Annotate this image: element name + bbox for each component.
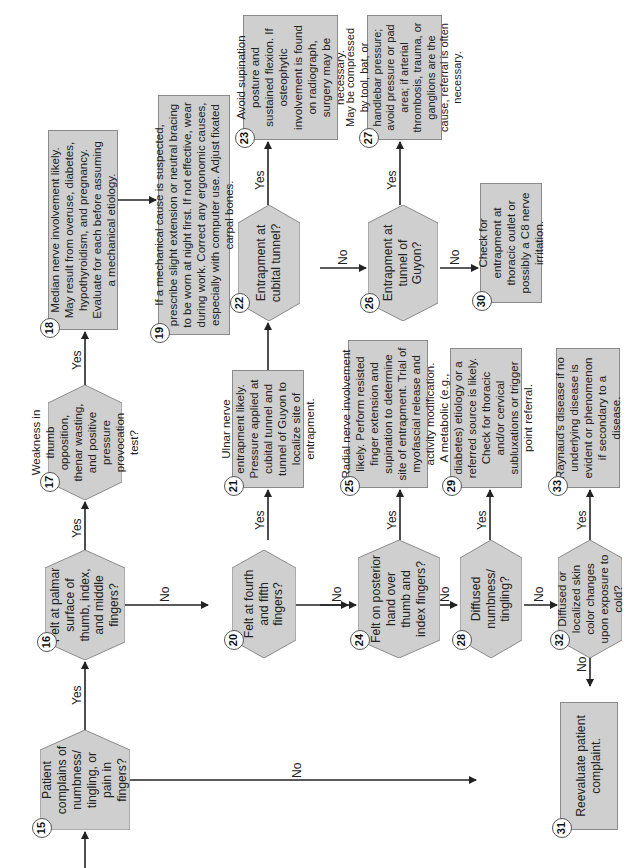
node-16-number: 16 <box>37 632 57 652</box>
edge-label-yes: Yes <box>475 510 489 530</box>
node-29-number: 29 <box>442 476 462 496</box>
edge-label-yes: Yes <box>385 170 399 190</box>
node-25-number: 25 <box>340 476 360 496</box>
edge-label-no: No <box>532 587 546 602</box>
node-20-text: Felt at fourth and fifth fingers? <box>242 564 287 644</box>
decision-node-32[interactable]: Diffused or localized skin color changes… <box>558 540 622 658</box>
edge-label-no: No <box>330 587 344 602</box>
edge-label-no: No <box>336 250 350 265</box>
node-33-text: Raynaud's disease if no underlying disea… <box>553 355 623 481</box>
node-21-text: Ulnar nerve entrapment likely. Pressure … <box>219 377 317 481</box>
node-23-number: 23 <box>235 128 255 148</box>
node-24-text: Felt on posterior hand over thumb and in… <box>369 554 429 644</box>
node-18-text: Median nerve involvement likely. May res… <box>48 137 118 323</box>
node-32-number: 32 <box>550 630 570 650</box>
decision-node-22[interactable]: Entrapment at cubital tunnel? 22 <box>238 205 300 321</box>
edge-label-yes: Yes <box>70 685 84 705</box>
node-18-number: 18 <box>40 318 60 338</box>
node-28-text: Diffused numbness/ tingling? <box>469 554 514 644</box>
node-20-number: 20 <box>224 630 244 650</box>
node-31-number: 31 <box>552 818 572 838</box>
result-node-23[interactable]: Avoid supination posture and sustained f… <box>243 15 338 140</box>
result-node-25[interactable]: Radial nerve involvement likely. Perform… <box>348 340 428 488</box>
node-32-text: Diffused or localized skin color changes… <box>555 554 625 644</box>
edge-label-yes: Yes <box>253 510 267 530</box>
node-19-text: If a mechanical cause is suspected, pres… <box>152 102 236 328</box>
node-29-text: A metabolic (e.g., diabetes) etiology or… <box>437 355 535 481</box>
node-33-number: 33 <box>548 476 568 496</box>
result-node-31[interactable]: Reevaluate patient complaint. 31 <box>560 702 618 830</box>
node-15-text: Patient complains of numbness/ tingling,… <box>40 744 129 816</box>
result-node-27[interactable]: May be compressed by tool, bat, or handl… <box>367 15 442 140</box>
result-node-30[interactable]: Check for entrapment at thoracic outlet … <box>480 183 542 303</box>
result-node-18[interactable]: Median nerve involvement likely. May res… <box>48 130 118 330</box>
result-node-29[interactable]: A metabolic (e.g., diabetes) etiology or… <box>450 348 522 488</box>
edge-label-yes: Yes <box>253 170 267 190</box>
node-31-text: Reevaluate patient complaint. <box>574 709 604 823</box>
node-26-text: Entrapment at tunnel of Guyon? <box>381 219 426 307</box>
node-26-number: 26 <box>360 293 380 313</box>
node-28-number: 28 <box>452 630 472 650</box>
node-25-text: Radial nerve involvement likely. Perform… <box>339 347 437 481</box>
decision-node-20[interactable]: Felt at fourth and fifth fingers? 20 <box>232 550 296 658</box>
edge-label-no: No <box>448 250 462 265</box>
node-24-number: 24 <box>350 630 370 650</box>
result-node-33[interactable]: Raynaud's disease if no underlying disea… <box>556 348 620 488</box>
node-23-text: Avoid supination posture and sustained f… <box>234 22 346 133</box>
decision-node-28[interactable]: Diffused numbness/ tingling? 28 <box>460 540 522 658</box>
decision-node-24[interactable]: Felt on posterior hand over thumb and in… <box>358 540 440 658</box>
edge-label-yes: Yes <box>385 510 399 530</box>
decision-node-15[interactable]: Patient complains of numbness/ tingling,… <box>40 730 130 830</box>
edge-label-yes: Yes <box>70 350 84 370</box>
edge-label-no: No <box>158 587 172 602</box>
edge-label-no: No <box>438 587 452 602</box>
node-27-number: 27 <box>359 128 379 148</box>
decision-node-26[interactable]: Entrapment at tunnel of Guyon? 26 <box>368 205 438 321</box>
node-16-text: Felt at palmar surface of thumb, index, … <box>48 564 122 646</box>
node-15-number: 15 <box>32 818 52 838</box>
node-17-number: 17 <box>40 472 60 492</box>
flowchart-canvas: Yes Yes Yes No No Yes Yes No Yes No No Y… <box>0 0 629 868</box>
result-node-21[interactable]: Ulnar nerve entrapment likely. Pressure … <box>232 370 304 488</box>
node-27-text: May be compressed by tool, bat, or handl… <box>344 22 465 133</box>
node-21-number: 21 <box>224 476 244 496</box>
node-19-number: 19 <box>150 323 170 343</box>
edge-label-no: No <box>290 763 304 778</box>
edge-label-yes: Yes <box>575 510 589 530</box>
edge-label-yes: Yes <box>70 518 84 538</box>
node-30-number: 30 <box>472 291 492 311</box>
node-22-text: Entrapment at cubital tunnel? <box>254 219 284 307</box>
node-22-number: 22 <box>230 293 250 313</box>
decision-node-17[interactable]: Weakness in thumb opposition, thenar was… <box>48 385 122 500</box>
node-30-text: Check for entrapment at thoracic outlet … <box>476 190 546 296</box>
result-node-19[interactable]: If a mechanical cause is suspected, pres… <box>158 95 230 335</box>
edge-label-no: No <box>575 657 589 672</box>
decision-node-16[interactable]: Felt at palmar surface of thumb, index, … <box>45 550 125 660</box>
